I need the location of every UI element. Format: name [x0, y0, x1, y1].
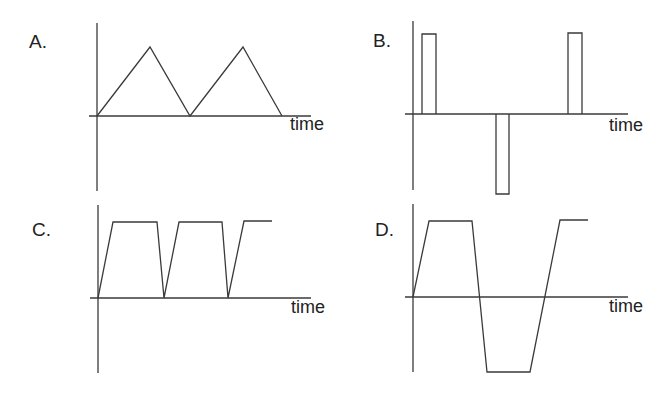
panel-d-label: D.: [375, 219, 394, 240]
panel-c: C. time: [32, 205, 325, 373]
panel-b-time-label: time: [609, 115, 643, 135]
panel-c-label: C.: [32, 219, 51, 240]
panel-b: B. time: [373, 21, 643, 194]
panel-a: A. time: [29, 23, 324, 191]
panel-b-pulse-3: [568, 33, 582, 114]
panel-a-label: A.: [29, 31, 47, 52]
panel-a-waveform: [97, 47, 282, 116]
panel-a-time-label: time: [290, 114, 324, 134]
panel-d-waveform: [413, 220, 588, 372]
panel-b-pulse-1: [422, 34, 436, 114]
panel-b-pulse-2-negative: [496, 114, 509, 194]
waveform-figure: A. time B. time C. time D. time: [0, 0, 662, 398]
panel-b-label: B.: [373, 30, 391, 51]
panel-c-waveform: [98, 221, 272, 298]
panel-d: D. time: [375, 204, 643, 372]
panel-d-time-label: time: [609, 296, 643, 316]
panel-c-time-label: time: [291, 297, 325, 317]
